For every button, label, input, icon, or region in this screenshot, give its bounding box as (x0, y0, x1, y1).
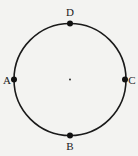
circle-diagram: D A C B (0, 0, 138, 156)
point-b-marker (67, 133, 73, 139)
center-dot (69, 79, 71, 81)
point-d-label: D (66, 6, 74, 18)
point-d-marker (67, 21, 73, 27)
diagram-canvas: D A C B (0, 0, 138, 156)
point-b-label: B (66, 140, 73, 152)
point-a-label: A (3, 74, 11, 86)
point-c-marker (122, 77, 128, 83)
point-d: D (66, 6, 74, 27)
point-b: B (66, 133, 73, 153)
point-c: C (122, 74, 136, 86)
point-a-marker (11, 77, 17, 83)
point-c-label: C (128, 74, 135, 86)
